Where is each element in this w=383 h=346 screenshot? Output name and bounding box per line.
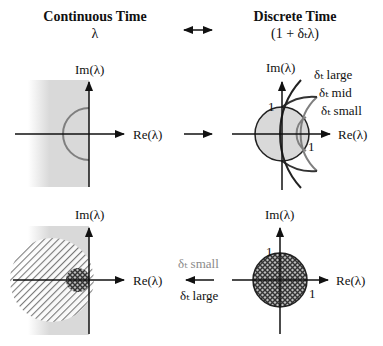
unit-label-top: 1 — [268, 99, 275, 114]
label-dt-small: δₜ small — [321, 103, 362, 118]
unit-label-top: 1 — [266, 244, 273, 259]
unit-label-right: 1 — [308, 139, 315, 154]
label-dt-large-between: δₜ large — [180, 288, 219, 303]
panel-top-left: Im(λ) Re(λ) — [15, 62, 162, 187]
label-dt-small-between: δₜ small — [178, 256, 219, 271]
panel-top-right: Im(λ) Re(λ) 1 1 δₜ large δₜ mid δₜ small — [232, 60, 367, 190]
im-axis-label: Im(λ) — [265, 207, 294, 222]
re-axis-label: Re(λ) — [338, 127, 367, 142]
panel-bottom-left: Im(λ) Re(λ) — [10, 207, 162, 335]
im-axis-label: Im(λ) — [75, 62, 104, 77]
im-axis-label: Im(λ) — [266, 60, 295, 75]
re-axis-label: Re(λ) — [336, 273, 365, 288]
re-axis-label: Re(λ) — [133, 127, 162, 142]
label-dt-mid: δₜ mid — [319, 85, 352, 100]
unit-label-right: 1 — [309, 286, 316, 301]
re-axis-label: Re(λ) — [133, 273, 162, 288]
label-dt-large: δₜ large — [314, 67, 353, 82]
diagram-canvas: Im(λ) Re(λ) Im(λ) Re(λ) 1 1 δₜ large δₜ … — [0, 0, 383, 346]
panel-bottom-right: Im(λ) Re(λ) 1 1 — [232, 207, 365, 334]
im-axis-label: Im(λ) — [75, 207, 104, 222]
